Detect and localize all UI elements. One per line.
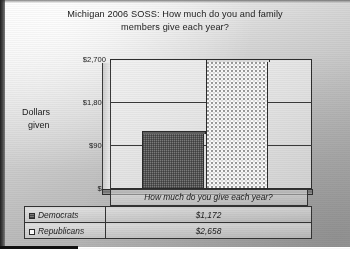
chart-screenshot: Michigan 2006 SOSS: How much do you and …	[0, 0, 350, 255]
bar-republicans	[206, 61, 268, 189]
plot-area	[110, 59, 312, 189]
bar-republicans-top	[206, 59, 270, 62]
bottom-white-margin	[0, 249, 350, 255]
category-header-cell: How much do you give each year?	[106, 189, 312, 207]
table-row: Republicans $2,658	[25, 223, 312, 239]
legend-item-republicans: Republicans	[25, 223, 106, 239]
bar-democrats	[142, 133, 204, 189]
legend-item-democrats: Democrats	[25, 207, 106, 223]
legend-label-democrats: Democrats	[38, 210, 79, 220]
bar-democrats-top	[142, 131, 206, 134]
table-corner-cell	[25, 189, 106, 207]
data-table: How much do you give each year? Democrat…	[24, 189, 312, 239]
value-republicans: $2,658	[106, 223, 312, 239]
legend-label-republicans: Republicans	[38, 226, 84, 236]
legend-swatch-democrats-icon	[29, 213, 35, 219]
legend-swatch-republicans-icon	[29, 229, 35, 235]
scan-edge-left	[0, 0, 5, 247]
table-row-category-header: How much do you give each year?	[25, 189, 312, 207]
scan-edge-top	[0, 0, 350, 3]
plot-depth-wall	[102, 63, 111, 193]
category-header-label: How much do you give each year?	[110, 189, 308, 206]
table-row: Democrats $1,172	[25, 207, 312, 223]
value-democrats: $1,172	[106, 207, 312, 223]
